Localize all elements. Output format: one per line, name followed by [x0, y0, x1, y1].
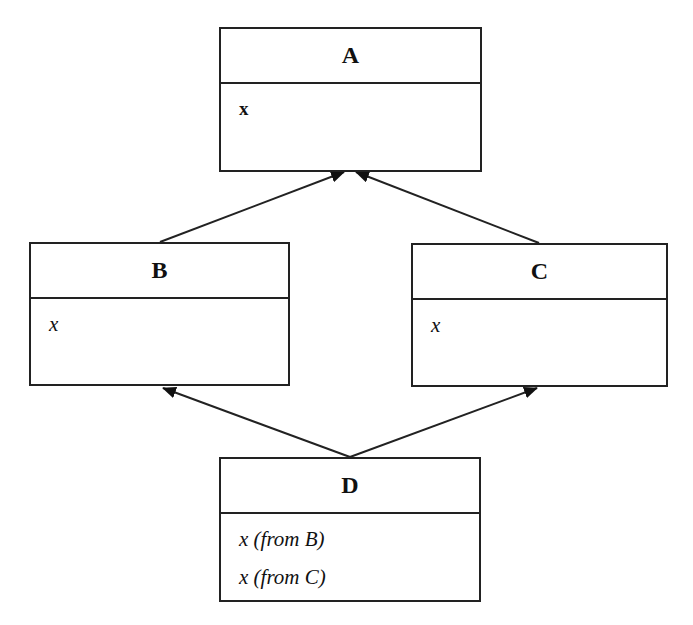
attribute-x: x: [239, 92, 480, 126]
class-box-a: A x: [219, 27, 482, 172]
edge-b-to-a: [160, 172, 344, 242]
class-name-c: C: [413, 245, 666, 300]
edge-d-to-c: [350, 388, 537, 457]
class-box-c: C x: [411, 243, 668, 387]
attribute-x: x: [431, 308, 666, 342]
attribute-x: x: [49, 307, 288, 341]
class-name-b: B: [31, 244, 288, 299]
class-name-a: A: [221, 29, 480, 84]
class-attributes-d: x (from B) x (from C): [221, 514, 479, 596]
class-attributes-c: x: [413, 300, 666, 342]
class-attributes-b: x: [31, 299, 288, 341]
edge-d-to-b: [163, 388, 350, 457]
class-box-b: B x: [29, 242, 290, 386]
class-attributes-a: x: [221, 84, 480, 126]
edge-c-to-a: [356, 172, 539, 243]
class-name-d: D: [221, 459, 479, 514]
attribute-x-from-c: x (from C): [239, 558, 479, 596]
class-box-d: D x (from B) x (from C): [219, 457, 481, 602]
attribute-x-from-b: x (from B): [239, 520, 479, 558]
